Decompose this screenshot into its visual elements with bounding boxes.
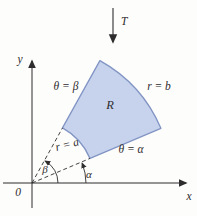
x-axis-label: x [185, 190, 192, 202]
inner-radius-label: r = a [54, 135, 80, 153]
origin-label: 0 [15, 186, 21, 198]
theta-alpha-label: θ = α [118, 143, 144, 155]
y-axis-label: y [16, 53, 23, 66]
alpha-angle-label: α [86, 168, 92, 180]
polar-region-figure: T y x 0 θ = β r = b R r = a θ = α β α [0, 0, 197, 216]
alpha-dashed-ray [32, 158, 90, 183]
figure-canvas: T y x 0 θ = β r = b R r = a θ = α β α [0, 0, 197, 216]
theta-beta-label: θ = β [54, 80, 79, 93]
beta-angle-label: β [41, 163, 48, 175]
region-label: R [105, 98, 114, 112]
outer-radius-label: r = b [147, 80, 171, 92]
force-label: T [121, 15, 129, 27]
